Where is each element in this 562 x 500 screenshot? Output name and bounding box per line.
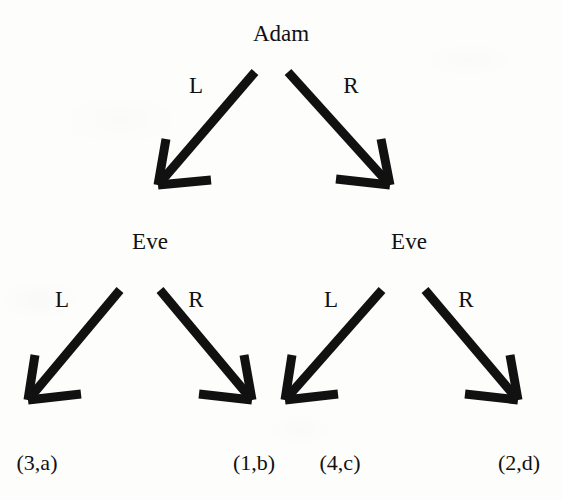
- node-label-eve-left: Eve: [132, 230, 168, 253]
- tree-edges-layer: [0, 0, 562, 500]
- node-label-eve-right: Eve: [391, 230, 427, 253]
- edge-root-L: [158, 72, 255, 185]
- edge-label-eve-right-L: L: [324, 288, 338, 311]
- node-label-root: Adam: [253, 22, 309, 45]
- payoff-label-2: (1,b): [233, 452, 275, 474]
- edge-eve-left-R: [160, 290, 252, 400]
- edge-label-root-L: L: [189, 74, 203, 97]
- payoff-label-1: (3,a): [17, 452, 58, 474]
- edge-label-eve-right-R: R: [458, 288, 473, 311]
- edge-label-root-R: R: [343, 74, 358, 97]
- payoff-label-3: (4,c): [320, 452, 361, 474]
- edge-label-eve-left-L: L: [55, 288, 69, 311]
- edge-label-eve-left-R: R: [188, 288, 203, 311]
- edge-root-R: [288, 72, 390, 185]
- edge-eve-left-L: [28, 290, 120, 400]
- game-tree-figure: Adam Eve Eve L R L R L R (3,a) (1,b) (4,…: [0, 0, 562, 500]
- payoff-label-4: (2,d): [498, 452, 540, 474]
